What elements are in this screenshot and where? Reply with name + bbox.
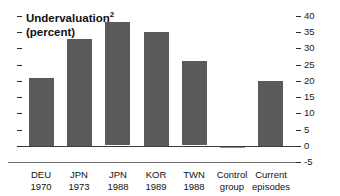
y-tick-label-15: 15: [304, 92, 315, 102]
y-tick-label-30: 30: [304, 43, 315, 53]
y-tick-right-0: [296, 146, 301, 147]
y-tick-left-5: [17, 130, 22, 131]
y-tick-label-35: 35: [304, 27, 315, 37]
y-tick-right-10: [296, 113, 301, 114]
category-label-0: DEU1970: [22, 169, 60, 192]
category-label-line2: 1988: [99, 181, 137, 193]
plot-area: [22, 16, 290, 162]
bar-deu-1970: [29, 78, 54, 146]
zero-baseline: [22, 146, 296, 147]
y-tick-label-0: 0: [304, 141, 309, 151]
category-label-line1: TWN: [175, 169, 213, 181]
category-label-line2: 1989: [137, 181, 175, 193]
y-tick-label-5: 5: [304, 125, 309, 135]
y-tick-label-10: 10: [304, 108, 315, 118]
y-tick-right-35: [296, 32, 301, 33]
y-tick-left-40: [17, 16, 22, 17]
category-label-1: JPN1973: [60, 169, 98, 192]
y-tick-right-40: [296, 16, 301, 17]
category-label-line1: DEU: [22, 169, 60, 181]
y-tick-right-15: [296, 97, 301, 98]
category-label-line2: 1970: [22, 181, 60, 193]
y-tick-left-35: [17, 32, 22, 33]
y-tick-label--5: -5: [304, 157, 312, 167]
y-tick-label-40: 40: [304, 11, 315, 21]
category-label-4: TWN1988: [175, 169, 213, 192]
bar-jpn-1973: [67, 39, 92, 146]
y-tick-right-25: [296, 65, 301, 66]
category-label-line2: group: [213, 181, 251, 193]
bottom-frame-line: [8, 162, 296, 163]
category-label-line1: KOR: [137, 169, 175, 181]
y-tick-left-25: [17, 65, 22, 66]
undervaluation-bar-chart: Undervaluation2 (percent) -5051015202530…: [0, 0, 340, 196]
category-label-line2: episodes: [252, 181, 290, 193]
category-label-line1: JPN: [99, 169, 137, 181]
y-tick-left-20: [17, 81, 22, 82]
y-tick-right-30: [296, 48, 301, 49]
category-label-line1: JPN: [60, 169, 98, 181]
bar-jpn-1988: [105, 22, 130, 145]
category-label-line1: Control: [213, 169, 251, 181]
bar-kor-1989: [144, 32, 169, 146]
bar-current-episodes: [258, 81, 283, 146]
y-tick-left-30: [17, 48, 22, 49]
category-label-3: KOR1989: [137, 169, 175, 192]
y-tick-right-20: [296, 81, 301, 82]
y-tick-label-25: 25: [304, 60, 315, 70]
category-label-line2: 1973: [60, 181, 98, 193]
y-tick-left-10: [17, 113, 22, 114]
y-tick-left-15: [17, 97, 22, 98]
category-label-line1: Current: [252, 169, 290, 181]
bar-twn-1988: [182, 61, 207, 145]
category-label-line2: 1988: [175, 181, 213, 193]
y-tick-label-20: 20: [304, 76, 315, 86]
y-tick-right--5: [296, 162, 301, 163]
category-label-2: JPN1988: [99, 169, 137, 192]
y-tick-right-5: [296, 130, 301, 131]
category-label-5: Controlgroup: [213, 169, 251, 192]
category-label-6: Currentepisodes: [252, 169, 290, 192]
